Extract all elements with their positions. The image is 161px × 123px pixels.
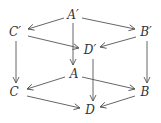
- node-a: A: [70, 68, 79, 80]
- arrow-A-to-C: [27, 77, 65, 89]
- arrow-Aprime-to-Bprime: [82, 18, 135, 29]
- node-b-prime: B′: [140, 26, 152, 38]
- node-d-prime: D′: [84, 44, 96, 56]
- arrow-Aprime-to-Cprime: [28, 18, 64, 29]
- node-b: B: [141, 86, 150, 98]
- arrow-C-to-D: [27, 96, 80, 108]
- diagram-arrows: [0, 0, 161, 123]
- arrow-Cprime-to-Dprime: [28, 36, 79, 48]
- commutative-cube-diagram: A′ C′ B′ D′ A C B D: [0, 0, 161, 123]
- arrow-B-to-D: [100, 96, 135, 107]
- arrow-Bprime-to-Dprime: [100, 37, 136, 47]
- node-d: D: [85, 104, 95, 116]
- arrow-A-to-B: [82, 77, 135, 89]
- node-c: C: [9, 86, 18, 98]
- node-a-prime: A′: [67, 9, 78, 21]
- node-c-prime: C′: [9, 26, 21, 38]
